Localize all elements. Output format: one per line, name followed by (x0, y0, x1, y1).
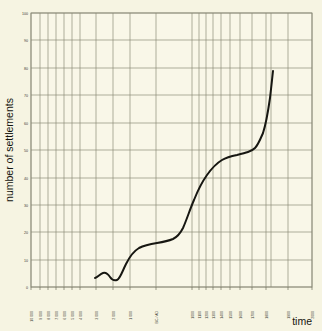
svg-text:1 000: 1 000 (129, 311, 133, 320)
svg-text:4 000: 4 000 (79, 311, 83, 320)
svg-text:0: 0 (26, 286, 28, 290)
svg-text:1400: 1400 (220, 311, 224, 319)
svg-text:3 000: 3 000 (95, 311, 99, 320)
svg-text:1200: 1200 (205, 311, 209, 319)
svg-text:1800: 1800 (265, 311, 269, 319)
svg-text:8 000: 8 000 (47, 311, 51, 320)
y-axis-title: number of settlements (3, 98, 15, 202)
svg-text:1600: 1600 (239, 311, 243, 319)
svg-text:50: 50 (24, 149, 28, 153)
svg-text:1500: 1500 (229, 311, 233, 319)
svg-text:10 000: 10 000 (30, 311, 34, 322)
svg-text:100: 100 (22, 12, 28, 16)
svg-text:40: 40 (24, 177, 28, 181)
settlements-line-chart: 100 90 80 70 60 50 40 30 20 10 0 (0, 0, 322, 331)
svg-text:30: 30 (24, 204, 28, 208)
svg-text:90: 90 (24, 39, 28, 43)
x-axis-title: time (292, 315, 312, 327)
svg-text:7 000: 7 000 (55, 311, 59, 320)
svg-text:1700: 1700 (251, 311, 255, 319)
svg-text:70: 70 (24, 94, 28, 98)
svg-text:1000: 1000 (191, 311, 195, 319)
svg-text:2 000: 2 000 (112, 311, 116, 320)
svg-text:9 000: 9 000 (39, 311, 43, 320)
svg-text:5 000: 5 000 (71, 311, 75, 320)
svg-text:BC / AD: BC / AD (155, 311, 159, 324)
chart-figure: 100 90 80 70 60 50 40 30 20 10 0 (0, 0, 322, 331)
svg-text:80: 80 (24, 67, 28, 71)
svg-text:6 000: 6 000 (63, 311, 67, 320)
svg-text:60: 60 (24, 122, 28, 126)
svg-text:1100: 1100 (198, 311, 202, 319)
svg-text:1900: 1900 (287, 311, 291, 319)
svg-text:1300: 1300 (212, 311, 216, 319)
svg-text:10: 10 (24, 259, 28, 263)
svg-text:20: 20 (24, 231, 28, 235)
